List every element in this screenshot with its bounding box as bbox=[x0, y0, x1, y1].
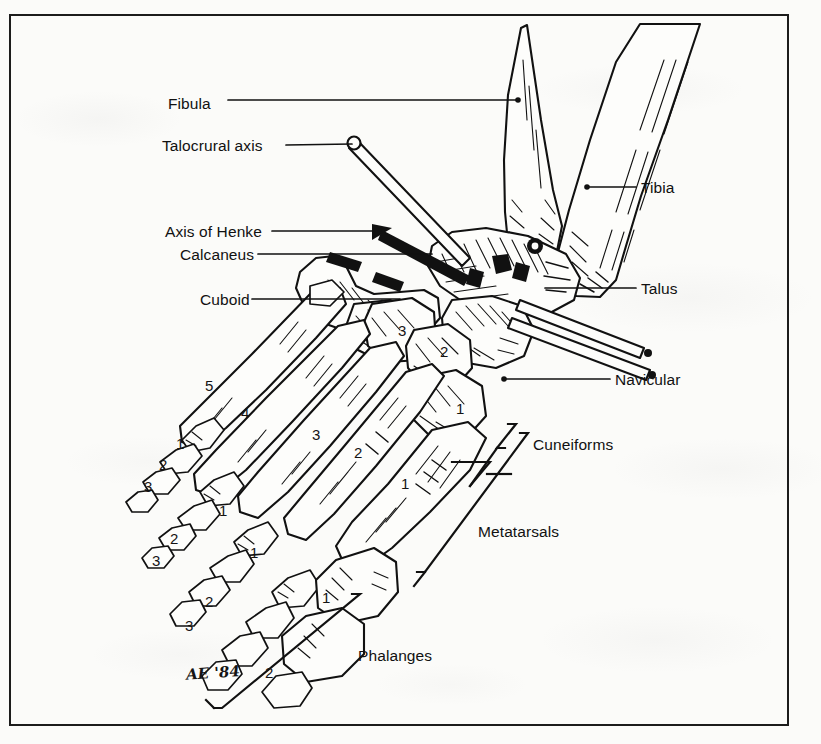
label-metatarsals: Metatarsals bbox=[478, 523, 559, 541]
phalanx-number: 3 bbox=[185, 617, 193, 634]
anatomical-figure: .bone{fill:#fdfdfb;stroke:#111;stroke-wi… bbox=[0, 0, 821, 744]
label-phalanges: Phalanges bbox=[358, 647, 432, 665]
phalanx-number: 1 bbox=[250, 544, 258, 561]
label-navicular: Navicular bbox=[615, 371, 681, 389]
metatarsal-number: 2 bbox=[354, 444, 362, 461]
phalanx-number: 2 bbox=[265, 664, 273, 681]
cuneiform-number: 2 bbox=[440, 343, 448, 360]
figure-border bbox=[9, 14, 789, 726]
label-cuboid: Cuboid bbox=[200, 291, 250, 309]
phalanx-number: 3 bbox=[144, 478, 152, 495]
phalanx-number: 1 bbox=[176, 435, 184, 452]
phalanx-number: 1 bbox=[322, 589, 330, 606]
cuneiform-number: 1 bbox=[456, 400, 464, 417]
phalanx-number: 2 bbox=[159, 456, 167, 473]
label-calcaneus: Calcaneus bbox=[180, 246, 254, 264]
label-tibia: Tibia bbox=[641, 179, 675, 197]
label-fibula: Fibula bbox=[168, 95, 211, 113]
phalanx-number: 2 bbox=[170, 530, 178, 547]
label-axis-of-henke: Axis of Henke bbox=[165, 223, 262, 241]
label-talocrural-axis: Talocrural axis bbox=[162, 137, 263, 155]
label-talus: Talus bbox=[641, 280, 678, 298]
metatarsal-number: 1 bbox=[401, 475, 409, 492]
cuneiform-number: 3 bbox=[398, 322, 406, 339]
phalanx-number: 3 bbox=[152, 552, 160, 569]
metatarsal-number: 5 bbox=[205, 377, 213, 394]
phalanx-number: 2 bbox=[205, 593, 213, 610]
phalanx-number: 1 bbox=[219, 502, 227, 519]
metatarsal-number: 4 bbox=[241, 404, 249, 421]
metatarsal-number: 3 bbox=[312, 426, 320, 443]
artist-signature: AE '84 bbox=[185, 662, 240, 684]
label-cuneiforms: Cuneiforms bbox=[533, 436, 613, 454]
